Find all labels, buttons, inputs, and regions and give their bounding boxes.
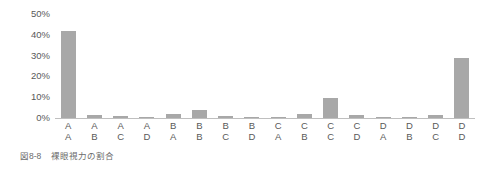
bar <box>113 116 128 118</box>
x-axis-tick-label: CA <box>265 120 291 144</box>
x-tick-bottom: A <box>370 131 396 142</box>
x-tick-bottom: B <box>291 131 317 142</box>
x-tick-top: C <box>291 120 317 131</box>
figure-caption: 図8-8裸眼視力の割合 <box>20 150 114 162</box>
bar-slot <box>344 14 370 118</box>
x-tick-bottom: B <box>396 131 422 142</box>
bar-slot <box>160 14 186 118</box>
x-tick-top: D <box>449 120 475 131</box>
x-tick-bottom: C <box>318 131 344 142</box>
x-axis-tick-label: DD <box>449 120 475 144</box>
x-tick-bottom: B <box>186 131 212 142</box>
x-tick-bottom: C <box>108 131 134 142</box>
x-tick-top: C <box>265 120 291 131</box>
x-axis-baseline <box>55 118 475 119</box>
x-tick-top: A <box>108 120 134 131</box>
x-tick-top: D <box>423 120 449 131</box>
bar-slot <box>134 14 160 118</box>
bar-slot <box>108 14 134 118</box>
x-tick-bottom: D <box>344 131 370 142</box>
y-axis-tick-label: 0% <box>10 113 50 123</box>
x-tick-top: B <box>186 120 212 131</box>
figure-container: 50%40%30%20%10%0% AAABACADBABBBCBDCACBCC… <box>0 0 490 171</box>
x-axis-tick-label: DA <box>370 120 396 144</box>
x-axis-tick-label: AD <box>134 120 160 144</box>
x-tick-top: A <box>55 120 81 131</box>
bar <box>297 114 312 118</box>
bar <box>454 58 469 118</box>
x-tick-bottom: C <box>423 131 449 142</box>
bar <box>271 117 286 118</box>
bar-slot <box>291 14 317 118</box>
bar-series <box>55 14 475 118</box>
y-axis-tick-label: 30% <box>10 51 50 61</box>
bar-slot <box>186 14 212 118</box>
x-tick-bottom: B <box>81 131 107 142</box>
bar <box>244 117 259 118</box>
bar-slot <box>396 14 422 118</box>
bar <box>166 114 181 118</box>
x-tick-bottom: D <box>449 131 475 142</box>
bar <box>428 115 443 118</box>
bar-slot <box>213 14 239 118</box>
x-tick-top: A <box>81 120 107 131</box>
bar <box>376 117 391 118</box>
bar-slot <box>318 14 344 118</box>
bar <box>87 115 102 118</box>
bar <box>323 98 338 118</box>
x-axis-tick-label: BA <box>160 120 186 144</box>
x-axis-tick-label: CC <box>318 120 344 144</box>
y-axis-tick-label: 20% <box>10 71 50 81</box>
bar-slot <box>449 14 475 118</box>
caption-number: 図8-8 <box>20 151 41 161</box>
bar <box>61 31 76 118</box>
x-tick-top: C <box>344 120 370 131</box>
y-axis-tick-label: 40% <box>10 30 50 40</box>
x-tick-top: D <box>396 120 422 131</box>
x-axis-tick-label: BD <box>239 120 265 144</box>
bar <box>402 117 417 118</box>
bar <box>218 116 233 118</box>
bar-slot <box>265 14 291 118</box>
bar-slot <box>81 14 107 118</box>
x-tick-bottom: A <box>265 131 291 142</box>
x-axis-tick-label: AA <box>55 120 81 144</box>
x-axis-tick-label: DB <box>396 120 422 144</box>
plot-area <box>55 14 475 118</box>
bar <box>139 117 154 118</box>
bar-slot <box>370 14 396 118</box>
x-axis-tick-label: AB <box>81 120 107 144</box>
x-axis-tick-label: BC <box>213 120 239 144</box>
x-tick-bottom: A <box>160 131 186 142</box>
y-axis-tick-label: 10% <box>10 92 50 102</box>
x-tick-top: B <box>239 120 265 131</box>
y-axis-tick-label: 50% <box>10 9 50 19</box>
x-tick-bottom: A <box>55 131 81 142</box>
x-tick-top: A <box>134 120 160 131</box>
caption-text: 裸眼視力の割合 <box>51 151 114 161</box>
x-axis-tick-label: AC <box>108 120 134 144</box>
bar-slot <box>423 14 449 118</box>
x-tick-bottom: D <box>134 131 160 142</box>
x-tick-top: B <box>213 120 239 131</box>
x-tick-bottom: D <box>239 131 265 142</box>
bar-slot <box>55 14 81 118</box>
x-axis-tick-label: CD <box>344 120 370 144</box>
bar <box>349 115 364 118</box>
x-axis-tick-label: BB <box>186 120 212 144</box>
x-tick-bottom: C <box>213 131 239 142</box>
bar <box>192 110 207 118</box>
x-axis-tick-label: DC <box>423 120 449 144</box>
bar-slot <box>239 14 265 118</box>
x-tick-top: B <box>160 120 186 131</box>
y-axis: 50%40%30%20%10%0% <box>10 8 50 120</box>
x-tick-top: C <box>318 120 344 131</box>
x-tick-top: D <box>370 120 396 131</box>
bar-chart: 50%40%30%20%10%0% AAABACADBABBBCBDCACBCC… <box>0 0 490 142</box>
x-axis-tick-label: CB <box>291 120 317 144</box>
x-axis: AAABACADBABBBCBDCACBCCCDDADBDCDD <box>55 120 475 144</box>
